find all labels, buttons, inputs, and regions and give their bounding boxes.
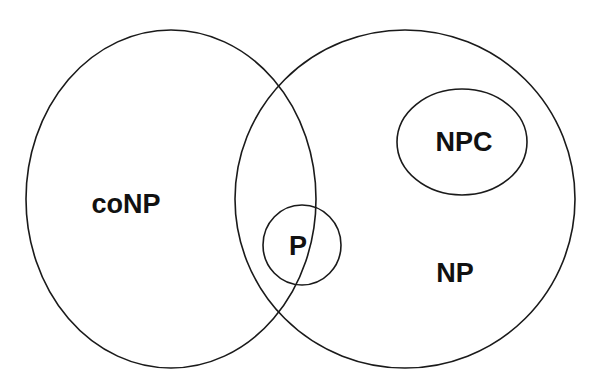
npc-label: NPC [435,127,492,157]
conp-circle [26,30,316,368]
p-label: P [289,231,307,261]
np-label: NP [436,258,474,288]
conp-label: coNP [91,189,160,219]
complexity-venn-diagram: coNP NP NPC P [0,0,590,385]
np-circle [235,30,575,368]
